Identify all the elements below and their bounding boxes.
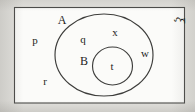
element-x-label: x — [112, 26, 118, 38]
element-w-label: w — [141, 47, 149, 59]
set-a-label: A — [58, 13, 67, 27]
element-p-label: p — [32, 34, 38, 46]
universal-set-symbol-text: ξ — [173, 17, 186, 24]
venn-diagram-figure: ξ A B p r q x w t — [0, 0, 195, 112]
universal-set-rectangle — [15, 8, 185, 104]
element-q-label: q — [80, 33, 86, 45]
venn-diagram-canvas: ξ A B p r q x w t — [0, 0, 195, 112]
universal-set-symbol: ξ — [173, 17, 186, 24]
element-r-label: r — [43, 75, 47, 87]
set-b-label: B — [80, 54, 88, 68]
element-t-label: t — [110, 60, 113, 72]
